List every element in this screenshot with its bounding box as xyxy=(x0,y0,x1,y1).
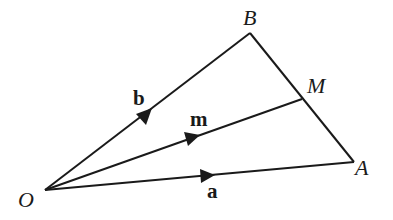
label-vector-a: a xyxy=(207,179,218,203)
line-OA xyxy=(45,162,354,190)
label-B: B xyxy=(243,5,256,30)
label-M: M xyxy=(306,73,327,98)
arrow-b-icon xyxy=(136,108,152,125)
label-A: A xyxy=(353,155,369,180)
label-vector-m: m xyxy=(190,107,208,131)
line-OM xyxy=(45,99,302,190)
label-O: O xyxy=(18,187,34,212)
vector-diagram: O B M A b m a xyxy=(0,0,393,220)
arrow-m-icon xyxy=(184,132,200,146)
label-vector-b: b xyxy=(133,86,145,110)
line-BA xyxy=(250,33,354,162)
